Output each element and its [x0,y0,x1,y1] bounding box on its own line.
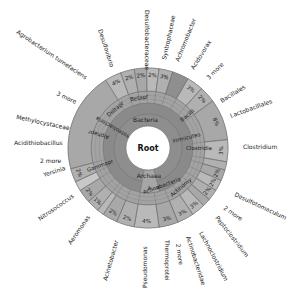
outer-label: Acinetobacter [101,239,119,282]
outer-label: Acidovorax [189,38,213,70]
outer-label: Desulfovibrio [97,28,116,68]
outer-label: 3 more [56,90,79,105]
percent-label: 3% [218,146,224,155]
outer-label: Yersinia [41,164,66,178]
outer-label: Acidithiobacillus [14,139,63,146]
inner-label: Bacteria [133,116,158,123]
outer-label: Aeromonas [66,214,91,246]
outer-label: Syntrophaceae [160,14,177,60]
outer-label: Lactobacillales [229,97,273,119]
outer-label: Thermoprotei [163,239,171,281]
percent-label: 2% [136,72,145,79]
outer-label: 2 more [175,243,185,265]
outer-label: 2 more [222,204,244,222]
outer-label: Achromobacter [173,17,197,63]
outer-label: Pseudomonas [141,246,148,288]
sunburst-chart: BacteriaArchaeaProteobacteriaFirmicutesA… [0,0,294,298]
outer-label: Clostridium [243,143,277,150]
outer-label: 3 more [205,61,225,81]
segment-aeromonas[interactable] [134,204,159,228]
outer-label: Desulfobacteraceae [144,10,151,70]
outer-label: Nitrosococcus [37,192,75,222]
outer-label: Bacillales [219,83,247,104]
inner-label: Archaea [137,172,162,179]
inner-label: Clostridia [186,145,212,151]
outer-label: Methylocystaceae [16,113,71,132]
outer-label: Peptoclostridium [213,214,250,259]
outer-label: Agrobacterium tumefaciens [15,28,89,81]
root-label: Root [138,144,159,153]
outer-label: 2 more [40,157,62,164]
percent-label: 4% [142,218,151,224]
percent-label: 2% [148,72,157,79]
